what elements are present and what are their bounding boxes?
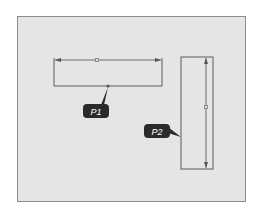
midpoint-marker-icon	[205, 106, 208, 109]
callout-p1: P1	[83, 87, 109, 118]
midpoint-marker-icon	[96, 59, 99, 62]
vertical-dimension[interactable]	[205, 58, 208, 168]
callout-p2-label: P2	[151, 127, 162, 137]
sketch-canvas: P1 P2	[0, 0, 261, 216]
p1-anchor-point[interactable]	[106, 84, 109, 87]
horizontal-rectangle[interactable]	[54, 58, 162, 86]
callout-p1-label: P1	[90, 107, 101, 117]
horizontal-dimension[interactable]	[55, 59, 161, 62]
vertical-rectangle[interactable]	[181, 57, 213, 169]
callout-p2: P2	[144, 124, 181, 138]
